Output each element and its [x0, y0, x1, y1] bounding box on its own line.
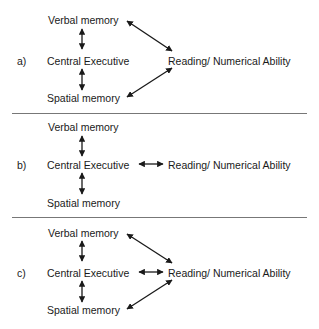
- node-central-executive-b: Central Executive: [47, 159, 129, 171]
- node-reading-ability-c: Reading/ Numerical Ability: [168, 267, 291, 279]
- node-spatial-memory-c: Spatial memory: [47, 304, 120, 316]
- arrow-spatial-reading-a: [127, 68, 172, 97]
- node-spatial-memory-b: Spatial memory: [47, 197, 120, 209]
- panel-label-b: b): [17, 159, 26, 171]
- node-verbal-memory-c: Verbal memory: [48, 227, 119, 239]
- panel-label-c: c): [17, 267, 26, 279]
- arrow-verbal-reading-c: [127, 234, 172, 263]
- arrow-verbal-reading-a: [127, 21, 172, 51]
- node-central-executive-a: Central Executive: [47, 55, 129, 67]
- node-central-executive-c: Central Executive: [47, 267, 129, 279]
- separator-1: [12, 113, 307, 114]
- node-spatial-memory-a: Spatial memory: [47, 92, 120, 104]
- arrow-spatial-reading-c: [127, 280, 172, 309]
- node-reading-ability-a: Reading/ Numerical Ability: [168, 55, 291, 67]
- node-verbal-memory-b: Verbal memory: [48, 121, 119, 133]
- separator-2: [12, 217, 307, 218]
- node-verbal-memory-a: Verbal memory: [48, 14, 119, 26]
- node-reading-ability-b: Reading/ Numerical Ability: [168, 159, 291, 171]
- panel-label-a: a): [17, 55, 26, 67]
